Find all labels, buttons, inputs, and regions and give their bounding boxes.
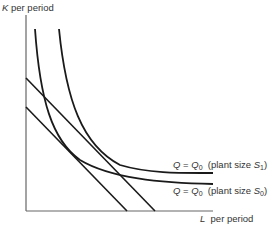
y-axis-var: K — [2, 2, 8, 13]
label-isoquant-s0: Q = Q0 (plant size S0) — [173, 185, 267, 197]
y-axis-label: K per period — [2, 2, 54, 13]
x-axis-label: L per period — [200, 213, 253, 224]
isoquant-s1 — [59, 29, 213, 173]
isocost-line-upper — [26, 78, 155, 211]
y-axis-unit: per period — [11, 2, 54, 13]
x-axis-unit: per period — [211, 213, 254, 224]
label-isoquant-s1: Q = Q0 (plant size S1) — [173, 159, 267, 171]
x-axis-var: L — [200, 213, 205, 224]
